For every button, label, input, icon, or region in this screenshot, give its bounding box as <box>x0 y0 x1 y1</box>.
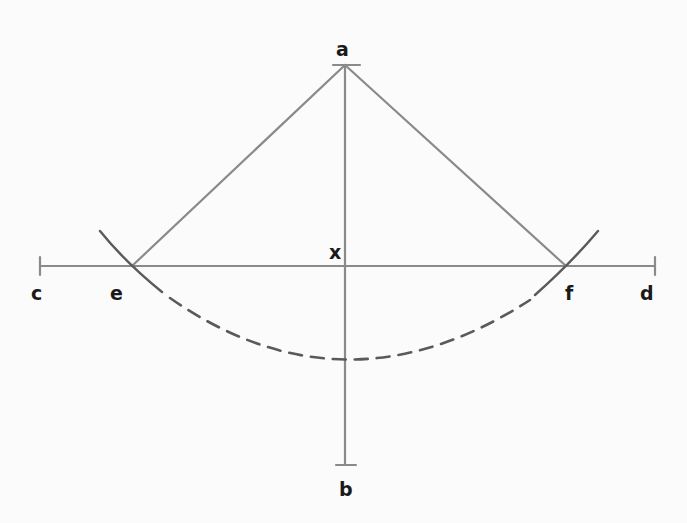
arc-ef-dashed <box>170 298 530 360</box>
label-b: b <box>339 478 353 500</box>
label-a: a <box>336 38 349 60</box>
label-c: c <box>31 282 42 304</box>
label-x: x <box>329 241 341 263</box>
label-e: e <box>110 282 123 304</box>
label-d: d <box>640 282 654 304</box>
geometry-diagram: a b c d e f x <box>0 0 687 523</box>
line-ae <box>132 65 345 266</box>
line-af <box>345 65 566 266</box>
label-f: f <box>565 282 574 304</box>
